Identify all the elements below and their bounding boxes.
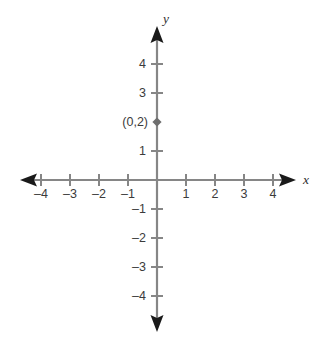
y-tick-label--2: –2	[132, 232, 146, 245]
y-tick-label-4: 4	[139, 58, 146, 71]
y-tick-label--4: –4	[132, 290, 146, 303]
x-tick-label--3: –3	[63, 188, 77, 201]
coordinate-plane-svg	[0, 0, 323, 339]
x-tick-label--4: –4	[34, 188, 48, 201]
x-tick-label-4: 4	[270, 188, 277, 201]
y-tick-label--3: –3	[132, 261, 146, 274]
x-tick-label-3: 3	[241, 188, 248, 201]
point-label-0-2: (0,2)	[122, 116, 148, 129]
y-tick-label--1: –1	[132, 203, 146, 216]
y-tick-label-3: 3	[139, 87, 146, 100]
coordinate-plane-figure: –4 –3 –2 –1 1 2 3 4 4 3 1 –1 –2 –3 –4 (0…	[0, 0, 323, 339]
data-points-group	[152, 117, 161, 126]
x-tick-label--1: –1	[121, 188, 135, 201]
y-axis-title: y	[163, 12, 169, 26]
data-point-marker[interactable]	[152, 117, 161, 126]
x-tick-label-2: 2	[212, 188, 219, 201]
x-tick-label-1: 1	[183, 188, 190, 201]
x-axis-title: x	[303, 173, 309, 187]
axis-lines-group	[24, 30, 292, 328]
x-tick-label--2: –2	[92, 188, 106, 201]
y-tick-label-1: 1	[139, 145, 146, 158]
